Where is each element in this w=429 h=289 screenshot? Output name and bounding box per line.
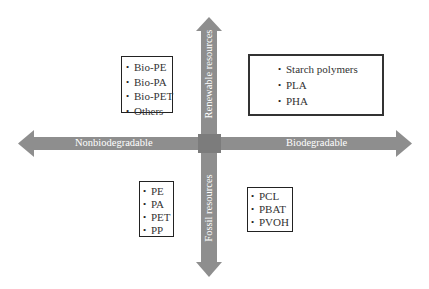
list-item: Bio-PE	[125, 60, 170, 75]
left-arrowhead-icon	[18, 130, 34, 157]
bottom-right-quadrant-box: PCL PBAT PVOH	[247, 187, 293, 232]
list-item: PLA	[277, 77, 382, 93]
list-item: PE	[142, 185, 173, 198]
axis-label-fossil-resources: Fossil resources	[203, 173, 215, 243]
list-item: PA	[142, 198, 173, 211]
list-item: PBAT	[250, 203, 292, 216]
list-item: Bio-PET	[125, 89, 170, 104]
bottom-left-quadrant-box: PE PA PET PP	[139, 181, 174, 237]
list-item: PHA	[277, 93, 382, 109]
right-arrowhead-icon	[396, 130, 412, 157]
bio-based-biodegradable-list: Starch polymers PLA PHA	[277, 61, 382, 109]
list-item: Others	[125, 104, 170, 119]
axis-label-nonbiodegradable: Nonbiodegradable	[75, 137, 153, 149]
axis-label-renewable-resources: Renewable resources	[203, 23, 215, 125]
list-item: Starch polymers	[277, 61, 382, 77]
bio-based-nonbiodegradable-list: Bio-PE Bio-PA Bio-PET Others	[125, 60, 170, 118]
list-item: PP	[142, 224, 173, 237]
fossil-biodegradable-list: PCL PBAT PVOH	[250, 190, 292, 229]
list-item: PET	[142, 211, 173, 224]
top-right-quadrant-box: Starch polymers PLA PHA	[248, 54, 384, 116]
list-item: PVOH	[250, 216, 292, 229]
fossil-nonbiodegradable-list: PE PA PET PP	[142, 185, 173, 237]
down-arrowhead-icon	[196, 262, 222, 277]
center-square	[198, 134, 221, 153]
list-item: Bio-PA	[125, 75, 170, 90]
axis-label-biodegradable: Biodegradable	[286, 137, 347, 149]
top-left-quadrant-box: Bio-PE Bio-PA Bio-PET Others	[121, 56, 173, 113]
list-item: PCL	[250, 190, 292, 203]
